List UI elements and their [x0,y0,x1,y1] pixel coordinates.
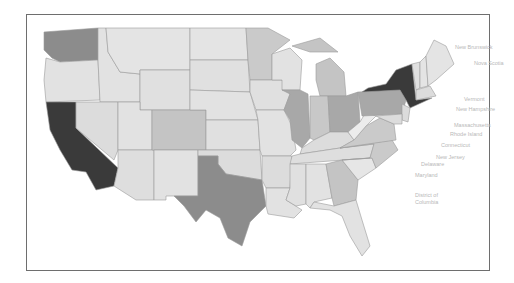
state-pennsylvania[interactable] [358,90,406,116]
state-north-dakota[interactable] [190,28,248,60]
label-maryland: Maryland [415,172,438,178]
state-south-dakota[interactable] [190,60,250,92]
label-rhode-island: Rhode Island [450,131,482,137]
label-vermont: Vermont [464,96,484,102]
state-arkansas[interactable] [262,156,292,188]
state-maine[interactable] [426,40,454,86]
label-district-of-columbia-1: District of [415,192,438,198]
label-connecticut: Connecticut [441,142,470,148]
label-massachusetts: Massachusetts [454,122,491,128]
state-washington[interactable] [44,28,98,62]
state-new-mexico[interactable] [154,150,198,200]
state-oregon[interactable] [44,58,100,102]
state-colorado[interactable] [152,110,206,150]
label-district-of-columbia-2: Columbia [415,199,438,205]
label-nova-scotia: Nova Scotia [474,60,504,66]
label-delaware: Delaware [421,161,444,167]
state-kansas[interactable] [206,120,260,150]
label-new-brunswick: New Brunswick [455,44,493,50]
state-wyoming[interactable] [140,70,190,110]
state-new-jersey[interactable] [402,104,410,122]
us-choropleth-map[interactable] [0,0,514,283]
label-new-jersey: New Jersey [436,154,465,160]
state-arizona[interactable] [114,150,154,200]
state-montana[interactable] [106,28,190,74]
state-florida[interactable] [310,200,370,256]
label-new-hampshire: New Hampshire [456,106,495,112]
